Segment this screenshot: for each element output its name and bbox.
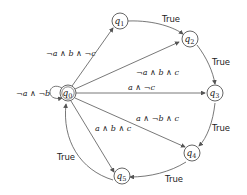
label-q0-q1: ¬a ∧ b ∧ ¬c [46, 49, 96, 58]
label-q1-q2: True [161, 14, 180, 24]
node-q2: q2 [182, 31, 198, 47]
label-q0-q5: a ∧ b ∧ c [95, 124, 132, 133]
node-q3: q3 [207, 85, 223, 101]
label-q0-q2: ¬a ∧ b ∧ c [136, 68, 179, 77]
edge-q0-q5 [71, 101, 114, 172]
node-q5: q5 [114, 168, 130, 184]
state-diagram: q0 q1 q2 q3 q4 q5 ¬a ∧ ¬b ¬a ∧ b ∧ ¬c ¬a… [0, 0, 247, 195]
label-q2-q3: True [211, 57, 230, 67]
label-q3-q4: True [211, 123, 230, 133]
label-q0-q4: a ∧ ¬b ∧ c [136, 114, 179, 123]
label-q0-q3: a ∧ ¬c [128, 83, 155, 92]
edge-q5-q0 [65, 104, 113, 180]
node-q0: q0 [60, 85, 76, 101]
label-q5-q0: True [56, 152, 75, 162]
label-q4-q5: True [164, 174, 183, 184]
node-q1: q1 [112, 13, 128, 29]
node-q4: q4 [184, 145, 200, 161]
label-q0-q0: ¬a ∧ ¬b [16, 89, 50, 98]
